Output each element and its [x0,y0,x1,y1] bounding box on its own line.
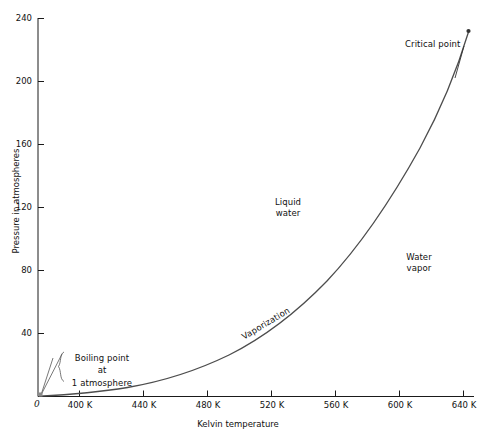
liquid-water-line-2: water [261,208,315,219]
liquid-water-line-1: Liquid [261,197,315,208]
water-vapor-line-1: Water [396,252,442,263]
x-tick-label-400: 400 K [57,400,103,410]
y-tick-label-200: 200 [4,76,32,86]
x-tick-label-600: 600 K [377,400,423,410]
x-tick-label-560: 560 K [313,400,359,410]
vaporization-curve [39,32,469,396]
boiling-point-leader-line [41,354,62,395]
boiling-point-leader-line-2 [41,358,53,395]
x-tick-label-640: 640 K [441,400,481,410]
boiling-point-line-3: 1 atmosphere [64,377,140,389]
y-tick-label-240: 240 [4,13,32,23]
water-vapor-region-label: Water vapor [396,252,442,273]
x-tick-label-520: 520 K [249,400,295,410]
critical-point-label: Critical point [405,39,461,50]
boiling-point-line-1: Boiling point [64,352,140,364]
water-vapor-line-2: vapor [396,263,442,274]
liquid-water-region-label: Liquid water [261,197,315,218]
x-axis-title: Kelvin temperature [0,419,476,429]
y-axis-title: Pressure in atmospheres [11,121,21,281]
boiling-point-label: Boiling point at 1 atmosphere [64,352,140,389]
y-tick-marks [38,19,44,334]
origin-label: 0 [34,399,40,409]
x-tick-label-480: 480 K [185,400,231,410]
critical-point-marker [466,29,470,33]
y-tick-label-40: 40 [4,328,32,338]
x-tick-marks [80,391,464,397]
critical-point-leader-line [455,46,464,78]
boiling-point-line-2: at [64,364,140,376]
boiling-point-marker [39,393,43,397]
x-tick-label-440: 440 K [121,400,167,410]
